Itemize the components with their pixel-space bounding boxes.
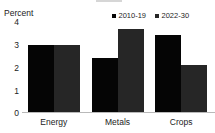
x-axis-category-labels: Energy Metals Crops [22, 117, 213, 127]
x-axis-label-energy: Energy [22, 117, 86, 127]
bar-group-metals [86, 14, 150, 112]
y-axis-tick: 0 [14, 109, 19, 118]
y-axis-tick: 3 [14, 40, 19, 49]
title-divider-remnant [96, 0, 122, 2]
bar-group-crops [149, 14, 213, 112]
y-axis-tick: 2 [14, 64, 19, 73]
bar-crops-2022-30 [181, 65, 207, 112]
bar-energy-2022-30 [54, 45, 80, 112]
bar-groups [22, 14, 213, 112]
bar-energy-2010-19 [28, 45, 54, 112]
bar-metals-2022-30 [118, 29, 144, 112]
bar-crops-2010-19 [155, 35, 181, 112]
bar-chart: Percent 2010-19 2022-30 4 3 2 1 0 [0, 0, 215, 133]
plot-area: 4 3 2 1 0 [22, 14, 213, 113]
bar-metals-2010-19 [92, 58, 118, 112]
x-axis-label-crops: Crops [149, 117, 213, 127]
x-axis-line [22, 112, 215, 113]
y-axis-tick: 1 [14, 87, 19, 96]
y-axis-tick: 4 [14, 17, 19, 26]
x-axis-label-metals: Metals [86, 117, 150, 127]
bar-group-energy [22, 14, 86, 112]
